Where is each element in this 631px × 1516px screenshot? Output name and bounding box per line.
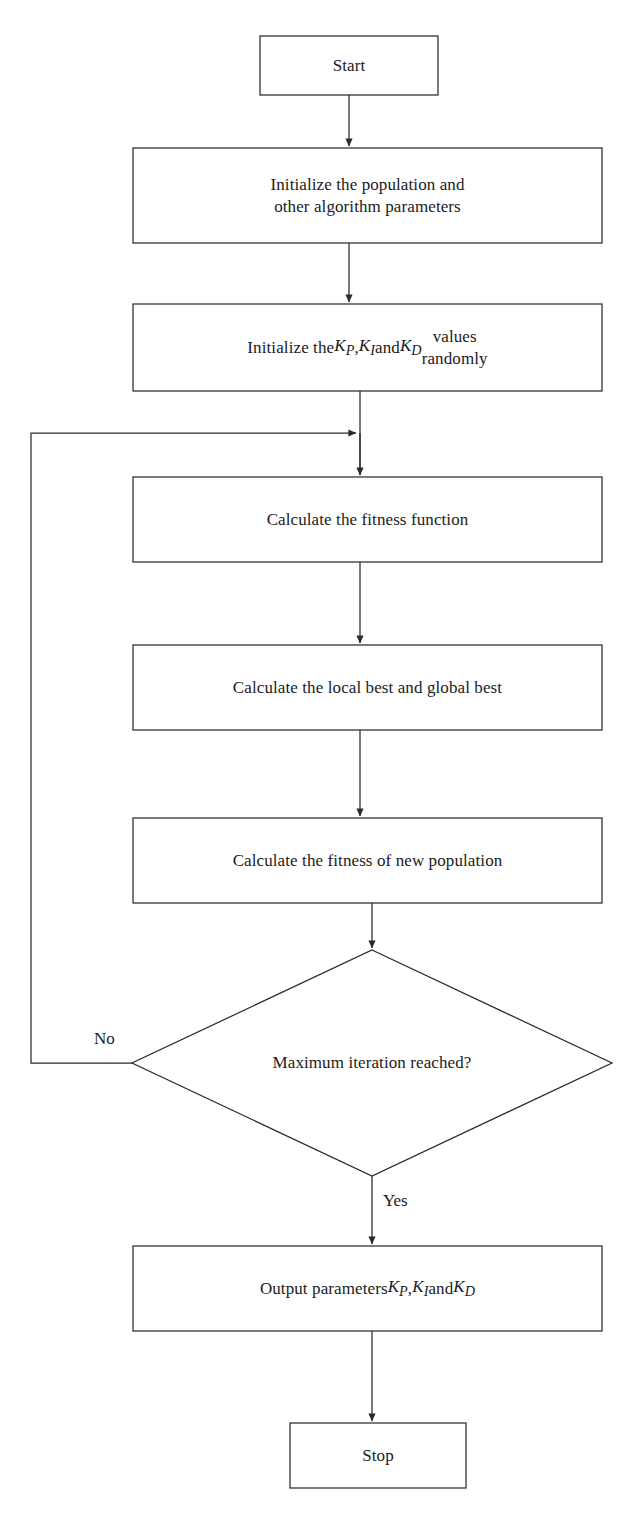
flowchart-diagram: Start Initialize the population and othe… [0, 0, 631, 1516]
edge-label-no: No [94, 1030, 115, 1047]
edge-label-yes: Yes [383, 1192, 408, 1209]
edge-max-iteration-no-feedback [31, 433, 356, 1063]
node-output-gains-shape [133, 1246, 602, 1331]
node-stop-shape [290, 1423, 466, 1488]
node-calc-new-population-shape [133, 818, 602, 903]
node-start-shape [260, 36, 438, 95]
node-init-gains-shape [133, 304, 602, 391]
node-calc-best-shape [133, 645, 602, 730]
flowchart-canvas [0, 0, 631, 1516]
node-init-population-shape [133, 148, 602, 243]
node-calc-fitness-shape [133, 477, 602, 562]
node-max-iteration-shape [132, 950, 612, 1176]
